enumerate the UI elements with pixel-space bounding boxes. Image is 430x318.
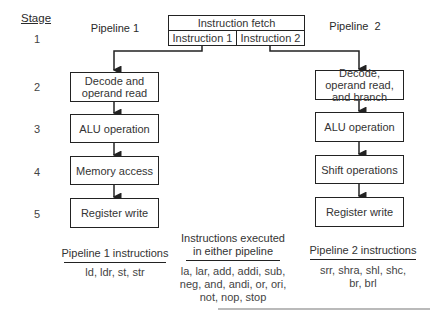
shared-instructions-header-line-1: Instructions executed — [178, 232, 288, 245]
stage-header: Stage — [20, 12, 52, 24]
pipeline-1-instructions-header: Pipeline 1 instructions — [60, 247, 170, 260]
p1-decode-operand-read: Decode and operand read — [70, 72, 159, 102]
pipeline-1-label: Pipeline 1 — [75, 22, 155, 34]
shared-instructions-line-1: la, lar, add, addi, sub, — [173, 265, 293, 278]
p2-shift-operations: Shift operations — [315, 155, 404, 184]
stage-number-2: 2 — [27, 81, 47, 93]
pipeline-2-instructions-header: Pipeline 2 instructions — [308, 244, 418, 257]
p2-alu-operation: ALU operation — [315, 112, 404, 142]
instruction-slot-2: Instruction 2 — [237, 31, 304, 45]
pipeline-2-label: Pipeline 2 — [315, 20, 395, 32]
p1-alu-operation: ALU operation — [70, 114, 159, 143]
pipeline-1-rule — [64, 262, 166, 263]
stage-number-1: 1 — [27, 33, 47, 45]
pipeline-2-instructions-line-2: br, brl — [308, 277, 418, 290]
pipeline-2-rule — [310, 259, 416, 260]
pipeline-2-instructions-line-1: srr, shra, shl, shc, — [308, 264, 418, 277]
shared-instructions-line-3: not, nop, stop — [173, 291, 293, 304]
stage-number-3: 3 — [27, 123, 47, 135]
shared-rule — [186, 260, 280, 261]
instruction-fetch-unit: Instruction fetch Instruction 1 Instruct… — [168, 15, 305, 46]
p1-register-write: Register write — [70, 198, 159, 228]
p1-memory-access: Memory access — [70, 156, 159, 185]
shared-instructions-header-line-2: in either pipeline — [178, 245, 288, 258]
instruction-slot-1: Instruction 1 — [169, 31, 237, 45]
p2-register-write: Register write — [315, 197, 404, 227]
pipeline-1-instructions: ld, ldr, st, str — [60, 266, 170, 279]
stage-number-4: 4 — [27, 166, 47, 178]
instruction-fetch-title: Instruction fetch — [169, 16, 304, 31]
shared-instructions-line-2: neg, and, andi, or, ori, — [173, 278, 293, 291]
p2-decode-operand-read-branch: Decode, operand read, and branch — [315, 70, 404, 100]
stage-number-5: 5 — [27, 208, 47, 220]
